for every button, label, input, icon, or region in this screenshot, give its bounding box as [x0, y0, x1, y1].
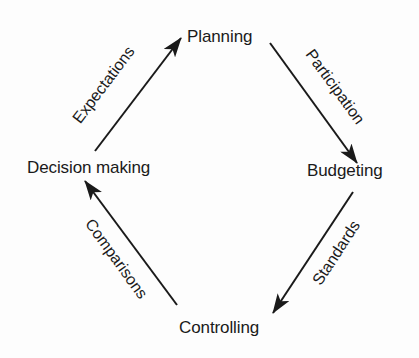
node-decision-making: Decision making [27, 158, 150, 178]
node-budgeting: Budgeting [307, 161, 383, 181]
cycle-diagram: Planning Budgeting Controlling Decision … [0, 0, 419, 358]
node-controlling: Controlling [179, 318, 259, 338]
node-planning: Planning [187, 27, 252, 47]
